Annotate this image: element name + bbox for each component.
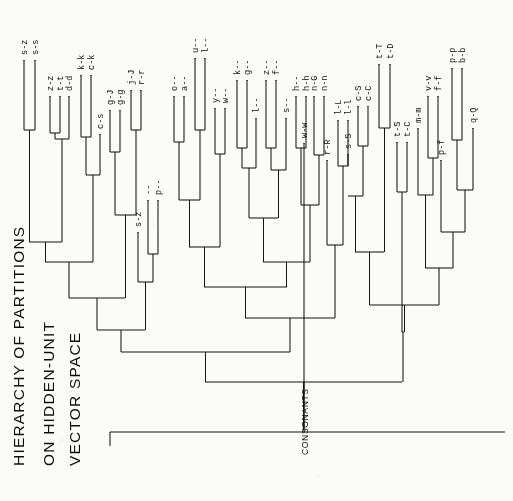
title-line-2: ON HIDDEN-UNIT — [40, 321, 57, 466]
leaf-label: p-f — [437, 140, 447, 155]
leaf-label: c-S — [354, 86, 364, 101]
leaf-label: f-f — [434, 76, 444, 91]
leaf-label: g-J — [106, 90, 116, 105]
title-line-1: HIERARCHY OF PARTITIONS — [10, 226, 27, 466]
leaf-label: b-b — [458, 48, 468, 63]
leaf-label: s-z — [134, 212, 144, 227]
leaf-label: l-- — [252, 98, 262, 113]
leaf-label: z-z — [46, 76, 56, 91]
leaf-label: n-G — [310, 76, 320, 91]
leaf-label: -- — [144, 185, 154, 195]
title-line-3: VECTOR SPACE — [66, 332, 83, 466]
leaf-label: c-k — [87, 55, 97, 70]
leaf-label: y-- — [211, 88, 221, 103]
leaf-label: r-r — [137, 70, 147, 85]
leaf-label: c-C — [364, 86, 374, 101]
leaf-label: k-- — [233, 60, 243, 75]
leaf-label: d-d — [65, 76, 75, 91]
cluster-annotation-consonants: CONSONANTS — [300, 388, 310, 455]
leaf-label: s-z — [20, 40, 30, 55]
leaf-label: q-Q — [469, 108, 479, 123]
leaf-label: h-- — [292, 76, 302, 91]
leaf-label: s-s — [31, 40, 41, 55]
dendrogram-svg: s-zs-sz-zt-td-dk-kc-kc-sg-Jg-gj-Jr-rs-z-… — [0, 0, 513, 501]
leaf-label: t-S — [393, 122, 403, 137]
leaf-label: p-- — [154, 180, 164, 195]
leaf-label: l-L — [334, 100, 344, 115]
leaf-label: w-- — [221, 88, 231, 103]
leaf-label: r-R — [323, 140, 333, 155]
leaf-label: k-k — [77, 55, 87, 70]
leaf-label: v-v — [424, 76, 434, 91]
leaf-label: l-- — [201, 38, 211, 53]
leaf-label: l-l — [344, 100, 354, 115]
leaf-label: o-- — [170, 76, 180, 91]
leaf-label: s-- — [282, 98, 292, 113]
leaf-label: u-- — [191, 38, 201, 53]
leaf-label: t-D — [386, 44, 396, 59]
leaf-label: g-g — [116, 90, 126, 105]
leaf-label: g-- — [243, 60, 253, 75]
leaf-label: s-S — [344, 134, 354, 149]
leaf-label: f-- — [272, 60, 282, 75]
leaf-label: w-w — [300, 122, 310, 138]
leaf-label: t-T — [375, 44, 385, 59]
dendrogram-figure: s-zs-sz-zt-td-dk-kc-kc-sg-Jg-gj-Jr-rs-z-… — [0, 0, 513, 501]
leaf-label: a-- — [180, 76, 190, 91]
dendrogram-leaf-labels: s-zs-sz-zt-td-dk-kc-kc-sg-Jg-gj-Jr-rs-z-… — [20, 38, 479, 227]
leaf-label: t-C — [403, 122, 413, 137]
leaf-label: p-p — [448, 48, 458, 63]
leaf-label: j-J — [127, 70, 137, 85]
leaf-label: z-- — [262, 60, 272, 75]
leaf-label: n-n — [320, 76, 330, 91]
leaf-label: m-m — [414, 108, 424, 123]
leaf-label: c-s — [96, 114, 106, 129]
